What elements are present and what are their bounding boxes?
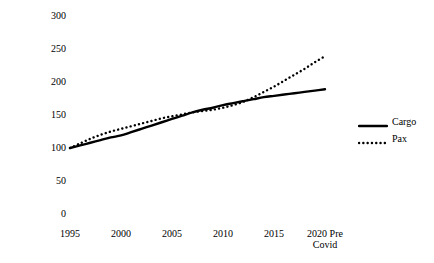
legend-item-pax[interactable]: Pax <box>358 130 434 147</box>
legend-label-pax: Pax <box>388 134 407 144</box>
legend-label-cargo: Cargo <box>388 117 416 127</box>
series-line-pax <box>70 56 325 148</box>
legend-swatch-cargo <box>358 117 388 127</box>
legend-item-cargo[interactable]: Cargo <box>358 113 434 130</box>
legend-swatch-pax <box>358 134 388 144</box>
chart-legend: CargoPax <box>358 113 434 147</box>
line-chart: Index Number 1995 = 100 0501001502002503… <box>0 0 434 263</box>
series-line-cargo <box>70 89 325 148</box>
